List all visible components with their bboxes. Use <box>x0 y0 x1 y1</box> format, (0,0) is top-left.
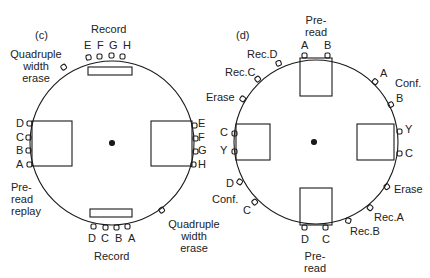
conf-top-d-label: Conf. <box>395 77 421 89</box>
head-b-left-c: B <box>16 144 23 156</box>
head-y-right-d: Y <box>405 123 412 135</box>
head-c-left-d: C <box>220 126 228 138</box>
panel-d-tag: (d) <box>236 29 249 41</box>
preread-head-c-d: C <box>322 233 330 245</box>
head-d-bottom-c: D <box>88 232 96 244</box>
head-h-right-c: H <box>198 158 206 170</box>
conf-head-a-label: A <box>380 67 387 79</box>
quad-erase-bottom-c-label: Quadruple width erase <box>162 218 226 254</box>
record-bottom-c-label: Record <box>94 250 129 262</box>
head-a-left-c: A <box>16 158 23 170</box>
erase-right-d-label: Erase <box>394 183 423 195</box>
conf-head-d-label: D <box>226 177 234 189</box>
drum-d-center <box>312 140 317 145</box>
rec-b-head <box>345 217 351 223</box>
conf-a-head <box>372 78 379 85</box>
preread-head-b-d: B <box>324 39 331 51</box>
head-c-bottom-c: C <box>101 232 109 244</box>
rec-b-label: Rec.B <box>350 225 380 237</box>
head-h-top-c: H <box>123 39 131 51</box>
head-e-top-c: E <box>84 39 91 51</box>
preread-block-left-c <box>32 121 72 166</box>
record-top-c-label: Record <box>91 23 126 35</box>
conf-bottom-d-label: Conf. <box>212 193 238 205</box>
head-g-right-c: G <box>198 144 207 156</box>
head-block-right-d <box>357 124 394 160</box>
conf-head-b-label: B <box>396 92 403 104</box>
preread-replay-c-label: Pre- read replay <box>11 181 41 217</box>
rec-d-label: Rec.D <box>247 48 278 60</box>
drum-c-center <box>110 141 115 146</box>
preread-block-bottom-d <box>300 188 332 225</box>
head-b-bottom-c: B <box>115 232 122 244</box>
quad-erase-top-c-label: Quadruple width erase <box>6 48 66 84</box>
preread-head-a-d: A <box>301 39 308 51</box>
heads-top-c <box>86 53 125 60</box>
head-f-top-c: F <box>97 39 104 51</box>
rec-c-label: Rec.C <box>225 66 256 78</box>
head-f-right-c: F <box>198 131 205 143</box>
preread-top-d-label: Pre- read <box>300 14 332 38</box>
head-c-right-d: C <box>405 147 413 159</box>
erase-head-right-d <box>383 183 390 190</box>
erase-left-d-label: Erase <box>206 91 235 103</box>
preread-bottom-d-label: Pre- read <box>298 250 332 274</box>
rec-a-label: Rec.A <box>374 211 404 223</box>
head-g-top-c: G <box>109 39 118 51</box>
head-d-left-c: D <box>16 117 24 129</box>
head-e-right-c: E <box>198 117 205 129</box>
record-head-block-bottom-c <box>90 209 132 217</box>
head-c-left-c: C <box>16 131 24 143</box>
preread-block-top-d <box>300 58 332 96</box>
head-block-left-d <box>236 124 270 160</box>
quad-erase-head-bottom-c <box>158 207 165 214</box>
panel-c-tag: (c) <box>35 29 48 41</box>
head-y-left-d: Y <box>220 144 227 156</box>
conf-d-head <box>236 178 243 185</box>
conf-head-c-label: C <box>243 204 251 216</box>
head-block-right-c <box>151 121 192 166</box>
preread-head-d-d: D <box>301 233 309 245</box>
record-head-block-top-c <box>88 67 132 75</box>
rec-d-head <box>275 60 281 66</box>
conf-b-head <box>387 101 394 108</box>
head-a-bottom-c: A <box>128 232 135 244</box>
